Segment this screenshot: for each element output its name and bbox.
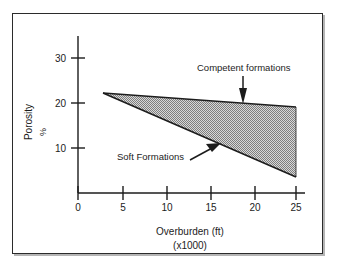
competent-formations-label: Competent formations: [197, 62, 291, 73]
x-tick-label-20: 20: [249, 202, 261, 213]
x-tick-label-10: 10: [161, 202, 173, 213]
x-tick-label-5: 5: [120, 202, 126, 213]
x-axis-title-line1: Overburden (ft): [156, 226, 224, 237]
x-axis-title-line2: (x1000): [173, 240, 207, 251]
y-axis: [71, 36, 85, 193]
y-tick-label-20: 20: [55, 98, 67, 109]
y-tick-label-30: 30: [55, 53, 67, 64]
figure-root: 30 20 10 Porosity % 0 5 10 15 20 25 Over…: [0, 0, 337, 269]
y-axis-title: Porosity: [23, 104, 34, 140]
soft-formations-label: Soft Formations: [117, 151, 184, 162]
x-tick-label-25: 25: [290, 202, 302, 213]
x-axis: [78, 186, 305, 200]
y-tick-label-10: 10: [55, 143, 67, 154]
x-tick-label-15: 15: [205, 202, 217, 213]
y-axis-unit: %: [38, 128, 48, 136]
arrow-down-icon: [239, 76, 247, 104]
x-tick-label-0: 0: [75, 202, 81, 213]
arrow-up-right-icon: [190, 143, 221, 160]
porosity-overburden-chart: 30 20 10 Porosity % 0 5 10 15 20 25 Over…: [0, 0, 337, 269]
